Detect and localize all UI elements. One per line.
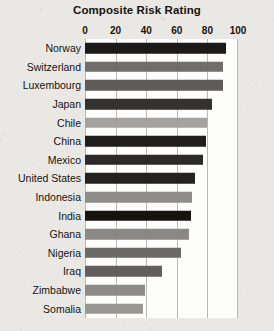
x-tick-label-80: 80 (202, 25, 213, 37)
category-label-japan: Japan (52, 98, 81, 110)
category-label-iraq: Iraq (63, 265, 81, 277)
bar-united-states (85, 173, 195, 184)
x-tick-label-100: 100 (230, 25, 247, 37)
category-label-ghana: Ghana (49, 228, 81, 240)
category-label-somalia: Somalia (43, 303, 81, 315)
bar-ghana (85, 229, 189, 240)
category-label-united-states: United States (18, 172, 81, 184)
chart-row: Japan (0, 95, 274, 114)
composite-risk-rating-chart: Composite Risk Rating 020406080100 Norwa… (0, 0, 274, 331)
paper-speckle (272, 20, 274, 21)
category-label-mexico: Mexico (48, 154, 81, 166)
x-tick-label-20: 20 (110, 25, 121, 37)
paper-speckle (160, 17, 163, 19)
bar-japan (85, 99, 212, 110)
category-label-nigeria: Nigeria (48, 247, 81, 259)
category-label-indonesia: Indonesia (35, 191, 81, 203)
paper-speckle (163, 19, 166, 21)
category-label-switzerland: Switzerland (27, 61, 81, 73)
chart-row: India (0, 206, 274, 225)
bar-zimbabwe (85, 285, 145, 296)
chart-row: Zimbabwe (0, 281, 274, 300)
bar-india (85, 210, 191, 221)
chart-row: Iraq (0, 262, 274, 281)
category-label-china: China (54, 135, 81, 147)
bar-norway (85, 43, 226, 54)
chart-row: Indonesia (0, 188, 274, 207)
chart-row: Norway (0, 39, 274, 58)
bar-nigeria (85, 248, 181, 259)
paper-speckle (203, 21, 206, 23)
chart-title: Composite Risk Rating (0, 4, 274, 16)
chart-row: China (0, 132, 274, 151)
chart-row: Ghana (0, 225, 274, 244)
bar-luxembourg (85, 80, 223, 91)
chart-row: Luxembourg (0, 76, 274, 95)
chart-row: United States (0, 169, 274, 188)
paper-speckle (198, 323, 200, 324)
x-tick-label-40: 40 (141, 25, 152, 37)
x-tick-label-60: 60 (171, 25, 182, 37)
bar-mexico (85, 155, 203, 166)
category-label-zimbabwe: Zimbabwe (33, 284, 81, 296)
paper-speckle (93, 16, 94, 18)
category-label-chile: Chile (57, 117, 81, 129)
paper-speckle (123, 325, 124, 327)
x-axis-tick-labels: 020406080100 (0, 25, 274, 38)
category-label-luxembourg: Luxembourg (23, 79, 81, 91)
chart-row: Mexico (0, 151, 274, 170)
chart-row: Switzerland (0, 58, 274, 77)
category-label-india: India (58, 210, 81, 222)
bar-indonesia (85, 192, 192, 203)
bar-switzerland (85, 62, 223, 73)
chart-row: Chile (0, 113, 274, 132)
bar-rows: NorwaySwitzerlandLuxembourgJapanChileChi… (0, 39, 274, 318)
paper-speckle (149, 327, 152, 329)
category-label-norway: Norway (45, 42, 81, 54)
bar-china (85, 136, 206, 147)
bar-somalia (85, 303, 143, 314)
bar-chile (85, 117, 207, 128)
chart-row: Somalia (0, 299, 274, 318)
x-tick-label-0: 0 (82, 25, 88, 37)
chart-row: Nigeria (0, 244, 274, 263)
bar-iraq (85, 266, 162, 277)
